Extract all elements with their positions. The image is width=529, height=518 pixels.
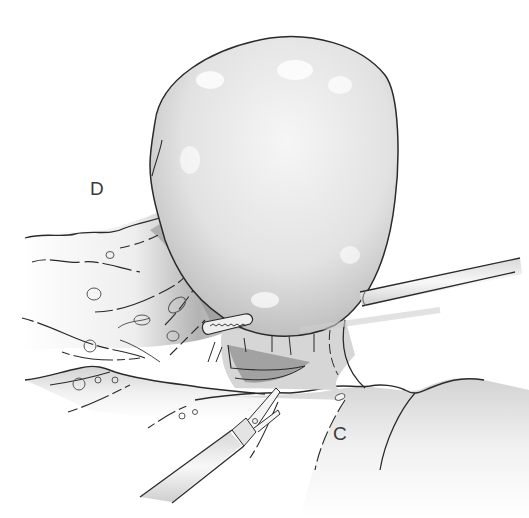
label-d: D — [90, 178, 104, 200]
label-c: C — [333, 423, 347, 445]
illustration-canvas: D C — [0, 0, 529, 518]
surgical-illustration — [0, 0, 529, 518]
